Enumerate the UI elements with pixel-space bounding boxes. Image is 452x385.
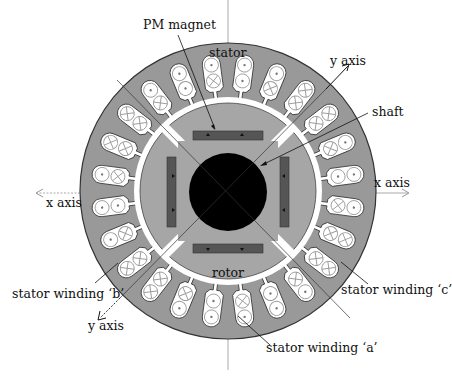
stator-label: stator [209, 45, 246, 60]
y-axis-top-label: y axis [329, 53, 366, 68]
shaft-label: shaft [372, 104, 404, 119]
pm-magnet-top [193, 131, 263, 140]
pm-magnet-label: PM magnet [143, 17, 216, 32]
y-axis-bottom-arrow-line [100, 298, 120, 318]
x-axis-left-label: x axis [46, 195, 82, 210]
winding-c-label: stator winding ‘c’ [341, 282, 452, 297]
shaft [189, 153, 267, 231]
pm-magnet-right [280, 157, 289, 227]
x-axis-right-label: x axis [374, 175, 410, 190]
pm-magnet-bottom [193, 244, 263, 253]
pm-magnet-left [167, 157, 176, 227]
y-axis-bottom-label: y axis [87, 318, 124, 333]
winding-b-label: stator winding ‘b’ [12, 286, 124, 301]
winding-a-label: stator winding ‘a’ [266, 340, 378, 355]
y-axis-top-arrow-line [326, 66, 348, 89]
rotor-label: rotor [212, 265, 244, 280]
motor-diagram: PM magnet stator y axis shaft x axis x a… [0, 0, 452, 385]
